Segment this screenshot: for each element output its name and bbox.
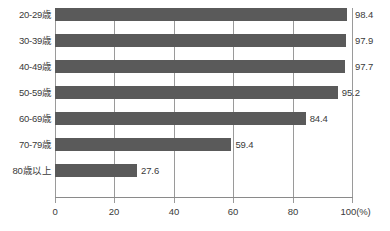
category-label: 20-29歳 xyxy=(0,8,52,21)
xtick-label-100: 100(%) xyxy=(341,206,371,217)
xtick-label-20: 20 xyxy=(109,206,119,217)
bar xyxy=(55,34,346,47)
bar xyxy=(55,138,231,151)
value-label: 27.6 xyxy=(141,164,159,177)
bar xyxy=(55,8,347,21)
category-label: 40-49歳 xyxy=(0,60,52,73)
xtick-label-0: 0 xyxy=(52,206,57,217)
bar xyxy=(55,164,137,177)
plot-area xyxy=(55,8,352,197)
bar xyxy=(55,112,306,125)
value-label: 59.4 xyxy=(235,138,253,151)
category-label: 80歳以上 xyxy=(0,164,52,177)
x-axis-line xyxy=(55,197,353,198)
value-label: 98.4 xyxy=(355,8,373,21)
xtick-label-100-value: 100 xyxy=(341,206,357,217)
category-label: 70-79歳 xyxy=(0,138,52,151)
xtick-label-60: 60 xyxy=(228,206,238,217)
value-label: 95.2 xyxy=(342,86,360,99)
gridline-100 xyxy=(352,8,353,203)
category-label: 60-69歳 xyxy=(0,112,52,125)
xtick-label-80: 80 xyxy=(288,206,298,217)
category-label: 30-39歳 xyxy=(0,34,52,47)
bar xyxy=(55,60,345,73)
bar xyxy=(55,86,338,99)
x-axis-unit-label: (%) xyxy=(356,206,370,217)
category-label: 50-59歳 xyxy=(0,86,52,99)
xtick-label-40: 40 xyxy=(169,206,179,217)
bar-chart: 20-29歳 30-39歳 40-49歳 50-59歳 60-69歳 70-79… xyxy=(0,0,390,231)
value-label: 97.7 xyxy=(355,60,373,73)
value-label: 84.4 xyxy=(310,112,328,125)
value-label: 97.9 xyxy=(355,34,373,47)
